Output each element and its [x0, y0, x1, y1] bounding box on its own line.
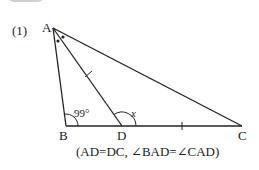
- point-label-B: B: [59, 129, 68, 142]
- angle-mark-dot-BAD: [56, 39, 59, 42]
- point-label-A: A: [42, 21, 51, 34]
- given-conditions: (AD=DC, ∠BAD=∠CAD): [76, 144, 219, 160]
- point-label-C: C: [238, 129, 247, 142]
- angle-mark-dot-CAD: [61, 35, 64, 38]
- point-label-D: D: [117, 129, 126, 142]
- angle-label-x: x: [131, 108, 136, 119]
- problem-number: (1): [12, 24, 27, 37]
- angle-label-B: 99°: [74, 108, 89, 119]
